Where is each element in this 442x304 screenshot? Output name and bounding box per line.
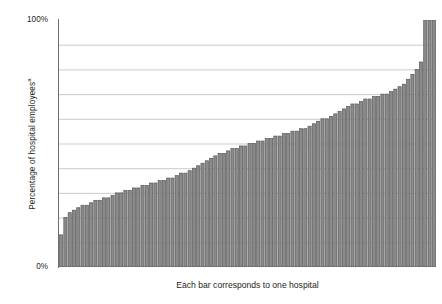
bar — [154, 183, 157, 267]
bar — [68, 213, 71, 267]
bar — [377, 97, 380, 267]
bar — [415, 69, 418, 267]
bar — [192, 168, 195, 267]
bar — [257, 141, 260, 267]
bar — [329, 116, 332, 267]
bar — [197, 166, 200, 267]
bar — [244, 146, 247, 267]
bar — [291, 131, 294, 267]
bar — [368, 99, 371, 267]
bar — [180, 173, 183, 267]
bar — [239, 146, 242, 267]
bar — [338, 111, 341, 267]
bar — [222, 153, 225, 267]
bar — [398, 87, 401, 267]
y-axis-title-footnote-marker: a — [26, 78, 32, 82]
bar — [107, 198, 110, 267]
bar — [98, 200, 101, 267]
bar — [295, 131, 298, 267]
bar — [389, 92, 392, 267]
bar — [94, 200, 97, 267]
bar — [252, 144, 255, 268]
bar — [265, 139, 268, 267]
bar — [372, 97, 375, 267]
x-axis-label: Each bar corresponds to one hospital — [59, 281, 436, 290]
bar — [124, 190, 127, 267]
bar — [334, 114, 337, 267]
bar — [81, 205, 84, 267]
bar — [321, 119, 324, 267]
bar — [205, 161, 208, 267]
bar — [120, 193, 123, 267]
bar — [115, 193, 118, 267]
bar — [171, 178, 174, 267]
bar — [248, 144, 251, 268]
bar — [282, 134, 285, 267]
bar — [111, 195, 114, 267]
bar — [150, 183, 153, 267]
bar — [299, 129, 302, 267]
bar — [227, 151, 230, 267]
bar — [141, 185, 144, 267]
bar — [432, 20, 435, 267]
bar — [214, 156, 217, 267]
bar — [77, 208, 80, 267]
bar — [132, 188, 135, 267]
bar-chart-svg — [59, 20, 436, 267]
bar — [308, 126, 311, 267]
bar — [394, 89, 397, 267]
bar — [424, 20, 427, 267]
bar — [411, 74, 414, 267]
y-axis-title-text: Percentage of hospital employees — [28, 81, 37, 209]
bar — [145, 185, 148, 267]
bar — [274, 136, 277, 267]
bar — [175, 176, 178, 267]
bar — [188, 171, 191, 267]
bar — [72, 210, 75, 267]
y-axis-tick-label-top: 100% — [0, 16, 48, 24]
bar — [317, 121, 320, 267]
bar — [351, 104, 354, 267]
plot-area — [59, 20, 436, 267]
bar — [385, 94, 388, 267]
bar — [304, 129, 307, 267]
bar — [312, 124, 315, 267]
bar — [85, 205, 88, 267]
bar — [325, 119, 328, 267]
bar — [60, 235, 63, 267]
bar — [261, 141, 264, 267]
bar — [184, 173, 187, 267]
bar — [158, 181, 161, 267]
y-axis-tick-label-bottom: 0% — [0, 263, 48, 271]
bar — [201, 163, 204, 267]
y-axis-title: Percentage of hospital employeesa — [26, 20, 40, 267]
bar — [287, 134, 290, 267]
bar — [364, 99, 367, 267]
bar — [347, 106, 350, 267]
bar — [137, 188, 140, 267]
bar — [210, 158, 213, 267]
bar — [235, 148, 238, 267]
bar — [342, 109, 345, 267]
bar — [359, 102, 362, 267]
bar — [162, 181, 165, 267]
bar — [419, 62, 422, 267]
bar — [407, 79, 410, 267]
bar — [428, 20, 431, 267]
bar — [231, 148, 234, 267]
bar — [64, 218, 67, 267]
bar — [278, 136, 281, 267]
bars-group — [59, 20, 436, 267]
bar — [218, 153, 221, 267]
bar — [102, 198, 105, 267]
bar — [128, 190, 131, 267]
bar — [167, 178, 170, 267]
bar — [269, 139, 272, 267]
bar — [402, 84, 405, 267]
chart-figure: Percentage of hospital employeesa 100% 0… — [0, 0, 442, 304]
bar — [90, 203, 93, 267]
bar — [381, 94, 384, 267]
bar — [355, 104, 358, 267]
